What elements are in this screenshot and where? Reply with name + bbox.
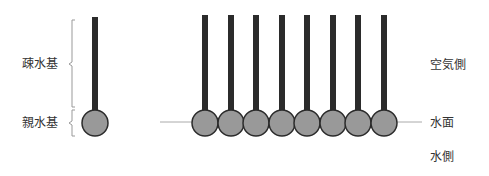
hydrophilic-head bbox=[294, 110, 320, 136]
hydrophobic-tail bbox=[253, 15, 259, 113]
hydrophilic-head bbox=[371, 110, 397, 136]
hydrophobic-tail bbox=[92, 17, 98, 112]
surfactant-molecule bbox=[243, 15, 269, 136]
hydrophobic-tail bbox=[381, 15, 387, 113]
hydrophilic-head bbox=[243, 110, 269, 136]
surfactant-molecule bbox=[269, 15, 295, 136]
single-surfactant-molecule bbox=[82, 17, 108, 136]
hydrophilic-head bbox=[218, 110, 244, 136]
surfactant-molecule bbox=[371, 15, 397, 136]
hydrophilic-head bbox=[345, 110, 371, 136]
label-water-side: 水側 bbox=[430, 150, 454, 164]
hydrophobic-brace bbox=[69, 20, 75, 107]
hydrophilic-head bbox=[320, 110, 346, 136]
label-air-side: 空気側 bbox=[430, 58, 466, 72]
hydrophilic-head bbox=[192, 110, 218, 136]
hydrophobic-tail bbox=[355, 15, 361, 113]
surfactant-molecule bbox=[294, 15, 320, 136]
hydrophobic-tail bbox=[202, 15, 208, 113]
hydrophilic-brace bbox=[69, 110, 75, 136]
monolayer bbox=[192, 15, 397, 136]
hydrophobic-tail bbox=[330, 15, 336, 113]
surfactant-molecule bbox=[345, 15, 371, 136]
surfactant-molecule bbox=[192, 15, 218, 136]
label-hydrophilic: 親水基 bbox=[22, 116, 58, 130]
hydrophobic-tail bbox=[228, 15, 234, 113]
diagram-canvas bbox=[0, 0, 489, 176]
hydrophobic-tail bbox=[279, 15, 285, 113]
hydrophilic-head bbox=[82, 110, 108, 136]
surfactant-molecule bbox=[320, 15, 346, 136]
hydrophilic-head bbox=[269, 110, 295, 136]
label-water-surface: 水面 bbox=[430, 116, 454, 130]
surfactant-molecule bbox=[218, 15, 244, 136]
label-hydrophobic: 疎水基 bbox=[22, 57, 58, 71]
hydrophobic-tail bbox=[304, 15, 310, 113]
